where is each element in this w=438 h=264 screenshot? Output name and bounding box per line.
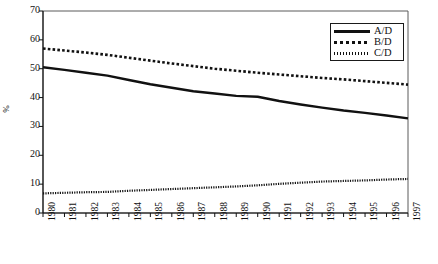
legend-swatch-solid-icon — [334, 30, 370, 33]
x-tick-label: 1996 — [391, 202, 401, 221]
x-tick-label: 1997 — [412, 202, 422, 221]
x-tick-label: 1984 — [133, 202, 143, 221]
x-tick-label: 1993 — [326, 202, 336, 221]
x-tick-label: 1981 — [68, 202, 78, 221]
legend-swatch-coarse-dotted-icon — [334, 41, 370, 44]
legend-swatch-fine-dotted-icon — [334, 52, 370, 55]
x-tick-label: 1987 — [197, 202, 207, 221]
x-tick-label: 1988 — [219, 202, 229, 221]
x-tick-label: 1995 — [369, 202, 379, 221]
line-chart: % 010203040506070 1980198119821983198419… — [0, 0, 438, 264]
x-tick-label: 1990 — [262, 202, 272, 221]
legend-item-2: C/D — [334, 48, 402, 59]
x-tick-label: 1991 — [283, 202, 293, 221]
x-tick-label: 1989 — [240, 202, 250, 221]
legend: A/D B/D C/D — [330, 23, 404, 61]
legend-label: A/D — [374, 25, 392, 36]
x-tick-label: 1985 — [154, 202, 164, 221]
legend-label: B/D — [374, 36, 392, 47]
x-tick-label: 1986 — [176, 202, 186, 221]
legend-label: C/D — [374, 47, 392, 58]
x-tick-label: 1994 — [348, 202, 358, 221]
x-tick-label: 1992 — [305, 202, 315, 221]
x-tick-label: 1980 — [47, 202, 57, 221]
x-tick-label: 1982 — [90, 202, 100, 221]
x-tick-label: 1983 — [111, 202, 121, 221]
